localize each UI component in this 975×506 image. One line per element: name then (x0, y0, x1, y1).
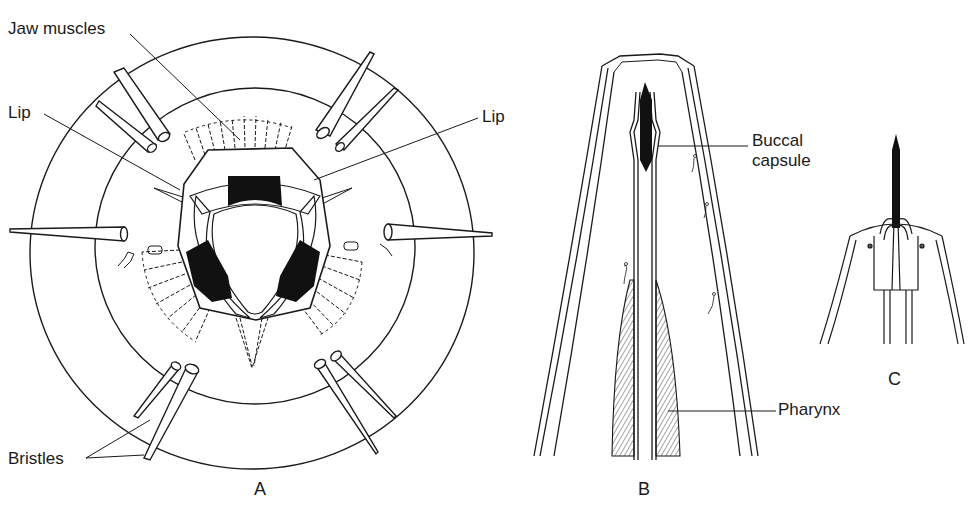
label-lip-right: Lip (482, 108, 505, 126)
stylet-base (874, 236, 918, 290)
amphid-c-left (868, 244, 872, 248)
label-lip-left: Lip (8, 104, 31, 122)
diagram-canvas (0, 0, 975, 506)
body-wall-right (694, 66, 758, 456)
panel-label-c: C (888, 370, 901, 389)
label-bristles: Bristles (8, 450, 64, 468)
head-cap (602, 54, 694, 66)
panel-a-drawing (10, 34, 492, 469)
body-c-left (820, 236, 850, 344)
amphid-c-right (920, 244, 924, 248)
buccal-capsule-dark (640, 82, 652, 172)
panel-label-a: A (254, 480, 266, 499)
panel-b-drawing (534, 54, 776, 460)
label-buccal-line1: Buccal (752, 132, 803, 150)
bristle-top-left (96, 68, 171, 154)
label-buccal-line2: capsule (752, 152, 811, 170)
jaw-muscle-bottom (236, 318, 268, 368)
panel-c-drawing (820, 134, 964, 344)
papilla-left (118, 252, 134, 268)
bristle-top-right (315, 52, 398, 153)
panel-label-b: B (638, 480, 650, 499)
label-pharynx: Pharynx (778, 401, 840, 419)
body-wall-left (534, 66, 602, 456)
papilla-b2 (692, 158, 694, 172)
papilla-b3 (708, 296, 714, 314)
pharynx-right (656, 280, 680, 456)
stylet (892, 134, 900, 228)
bristle-left (10, 227, 128, 241)
pharynx-left (612, 280, 634, 456)
bristle-bottom-right (313, 349, 396, 454)
bristle-right (384, 224, 492, 240)
papilla-right (380, 244, 392, 256)
body-c-right (942, 236, 964, 344)
bristle-bottom-left (134, 360, 200, 460)
amphid-left (148, 246, 162, 254)
label-jaw-muscles: Jaw muscles (8, 20, 105, 38)
papilla-b1 (624, 266, 627, 284)
leader-jaw-muscles (130, 34, 240, 140)
amphid-right (344, 242, 358, 250)
